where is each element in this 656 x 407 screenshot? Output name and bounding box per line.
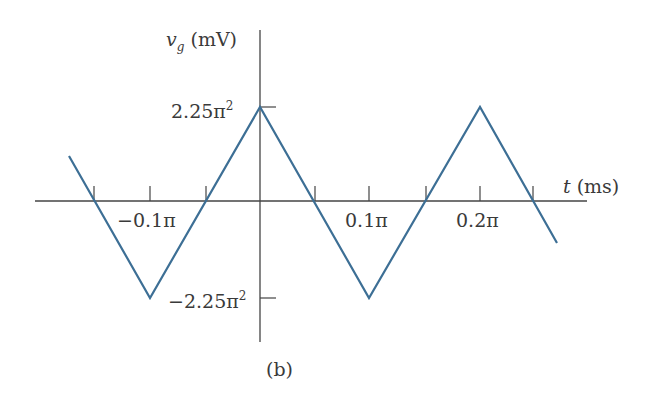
x-tick-p2-label: 0.2π bbox=[456, 211, 499, 230]
y-tick-top-label: 2.25π2 bbox=[171, 100, 233, 121]
y-ticks bbox=[260, 107, 276, 298]
y-subscript: g bbox=[177, 40, 185, 54]
x-axis-label: t (ms) bbox=[563, 177, 619, 196]
y-tick-top-text: 2.25π bbox=[171, 100, 226, 122]
triangle-waveform bbox=[69, 107, 557, 298]
y-tick-bottom-text: −2.25π bbox=[168, 290, 239, 312]
x-unit: (ms) bbox=[577, 175, 620, 197]
y-symbol: v bbox=[166, 28, 177, 50]
x-tick-neg-label: −0.1π bbox=[117, 211, 176, 230]
y-tick-bottom-label: −2.25π2 bbox=[168, 290, 246, 311]
y-axis-label: vg (mV) bbox=[166, 30, 237, 53]
triangle-wave-plot bbox=[0, 0, 656, 407]
x-symbol: t bbox=[563, 175, 571, 197]
figure-caption: (b) bbox=[266, 360, 293, 379]
y-unit: (mV) bbox=[190, 28, 237, 50]
y-tick-bottom-exp: 2 bbox=[239, 289, 247, 303]
figure-canvas: vg (mV) 2.25π2 −2.25π2 −0.1π 0.1π 0.2π t… bbox=[0, 0, 656, 407]
x-tick-p1-label: 0.1π bbox=[345, 211, 388, 230]
y-tick-top-exp: 2 bbox=[226, 99, 234, 113]
